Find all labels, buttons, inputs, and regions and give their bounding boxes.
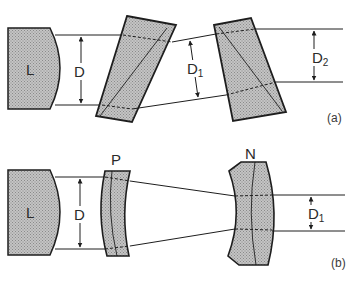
label-d1-b-main: D <box>308 205 319 222</box>
label-d1-a-sub: 1 <box>198 68 204 79</box>
label-width-d1-b: D1 <box>308 205 324 222</box>
prism-2 <box>214 18 286 121</box>
panel-label-a: (a) <box>327 112 342 124</box>
label-d2-a-sub: 2 <box>323 57 329 68</box>
label-lens-n: N <box>245 146 256 161</box>
panel-b <box>8 162 345 265</box>
negative-lens-n <box>228 162 274 265</box>
panel-a <box>8 16 343 122</box>
mid-beam-top-a <box>172 34 216 42</box>
label-d2-a-main: D <box>312 49 323 66</box>
label-d1-b-sub: 1 <box>319 213 325 224</box>
prism-1 <box>96 16 176 122</box>
label-width-d1-a: D1 <box>187 60 203 77</box>
label-lens-l-a: L <box>26 62 34 77</box>
label-width-d-a: D <box>74 63 85 80</box>
mid-beam-bottom-b <box>130 229 235 246</box>
panel-label-b: (b) <box>331 257 346 269</box>
mid-beam-top-b <box>130 181 235 196</box>
label-d1-a-main: D <box>187 60 198 77</box>
positive-lens-p <box>101 171 130 256</box>
label-lens-p: P <box>111 152 121 167</box>
label-lens-l-b: L <box>26 205 34 220</box>
optics-diagram <box>0 0 363 288</box>
label-width-d2-a: D2 <box>312 49 328 66</box>
label-width-d-b: D <box>74 206 85 223</box>
mid-beam-bottom-a <box>132 95 226 109</box>
